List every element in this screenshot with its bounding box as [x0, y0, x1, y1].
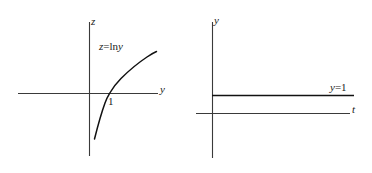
right-panel-axes [196, 22, 350, 158]
left-panel-horizontal-axis-label: y [160, 84, 165, 95]
curve-equation-label: z=lny [99, 41, 123, 52]
constant-line-equation-label: y=1 [330, 82, 347, 93]
constant-line-equation-value: =1 [335, 81, 347, 93]
right-panel-vertical-axis-label: y [214, 15, 219, 26]
figure-canvas [0, 0, 372, 173]
left-panel-axes [18, 22, 158, 156]
curve-equation-arg: y [118, 40, 123, 52]
curve-equation-operator: =ln [103, 40, 118, 52]
left-panel-vertical-axis-label: z [91, 16, 95, 27]
log-curve [95, 52, 157, 140]
right-panel-horizontal-axis-label: t [352, 104, 355, 115]
x-intercept-tick-label: 1 [108, 96, 114, 107]
figure-container: z y z=lny 1 y t y=1 [0, 0, 372, 173]
